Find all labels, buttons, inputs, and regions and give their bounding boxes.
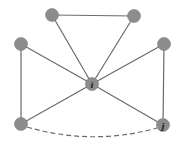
edge-mid-left-center	[21, 44, 92, 84]
edge-dashed-bottom-left-bottom-right	[27, 127, 157, 137]
nodes	[15, 9, 171, 132]
edge-top-right-center	[92, 16, 134, 84]
edge-mid-right-center	[92, 44, 164, 84]
edges	[21, 15, 164, 137]
node-top-right	[128, 10, 141, 23]
label-i: i	[90, 80, 93, 90]
edge-bottom-right-center	[92, 84, 163, 125]
edge-top-left-center	[52, 15, 92, 84]
node-mid-right	[158, 38, 171, 51]
edge-bottom-left-center	[21, 84, 92, 124]
node-mid-left	[15, 38, 28, 51]
network-graph: i j	[0, 0, 181, 145]
edge-mid-right-bottom-right	[163, 44, 164, 125]
node-bottom-left	[15, 118, 28, 131]
edge-top-left-top-right	[52, 15, 134, 16]
node-top-left	[46, 9, 59, 22]
